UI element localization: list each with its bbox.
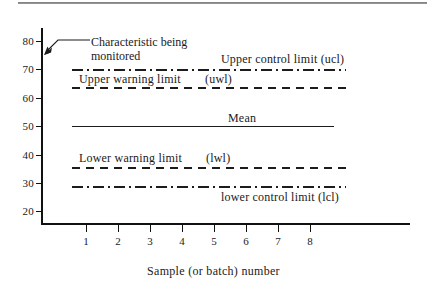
- y-axis-label-70: 70: [12, 64, 34, 75]
- x-axis-tick: [86, 225, 87, 232]
- x-axis-label-1: 1: [79, 235, 93, 247]
- x-axis-tick: [246, 225, 247, 232]
- x-axis-tick: [310, 225, 311, 232]
- x-axis-label-7: 7: [271, 235, 285, 247]
- callout-line-1: Characteristic being: [91, 35, 187, 49]
- x-axis-tick: [118, 225, 119, 232]
- mean-line: [72, 126, 334, 127]
- y-axis-tick: [36, 126, 42, 127]
- x-axis-label-5: 5: [207, 235, 221, 247]
- lower-control-limit-line: [72, 186, 346, 188]
- x-axis-label-4: 4: [175, 235, 189, 247]
- x-axis-label-8: 8: [303, 235, 317, 247]
- y-axis-label-80: 80: [12, 36, 34, 47]
- uwl-abbrev-label: (uwl): [205, 72, 232, 86]
- lower-warning-limit-line: [72, 167, 346, 169]
- lwl-label: Lower warning limit: [79, 151, 182, 165]
- y-axis-tick: [36, 211, 42, 212]
- y-axis-label-40: 40: [12, 150, 34, 161]
- uwl-label: Upper warning limit: [79, 72, 181, 86]
- lcl-label: lower control limit (lcl): [221, 190, 339, 204]
- y-axis-tick: [36, 183, 42, 184]
- y-axis-tick: [36, 98, 42, 99]
- callout-annotation: Characteristic being monitored: [91, 35, 187, 63]
- ucl-label: Upper control limit (ucl): [221, 52, 344, 66]
- x-axis-tick: [150, 225, 151, 232]
- x-axis-tick: [278, 225, 279, 232]
- page-rule-divider: [18, 2, 427, 4]
- x-axis-label-2: 2: [111, 235, 125, 247]
- lwl-abbrev-label: (lwl): [206, 151, 230, 165]
- x-axis-tick: [182, 225, 183, 232]
- y-axis-tick: [36, 155, 42, 156]
- x-axis-line: [41, 223, 410, 225]
- x-axis-label-3: 3: [143, 235, 157, 247]
- y-axis-tick: [36, 69, 42, 70]
- upper-warning-limit-line: [72, 87, 346, 89]
- callout-arrow-icon: [42, 38, 94, 58]
- x-axis-title: Sample (or batch) number: [0, 264, 427, 278]
- x-axis-label-6: 6: [239, 235, 253, 247]
- y-axis-label-20: 20: [12, 206, 34, 217]
- figure-canvas: 80 70 60 50 40 30 20 1 2 3 4 5 6 7 8 Sam…: [0, 0, 427, 297]
- y-axis-label-50: 50: [12, 121, 34, 132]
- callout-line-2: monitored: [91, 49, 187, 63]
- y-axis-label-30: 30: [12, 178, 34, 189]
- mean-label: Mean: [228, 111, 256, 125]
- upper-control-limit-line: [72, 69, 346, 71]
- y-axis-label-60: 60: [12, 93, 34, 104]
- x-axis-tick: [214, 225, 215, 232]
